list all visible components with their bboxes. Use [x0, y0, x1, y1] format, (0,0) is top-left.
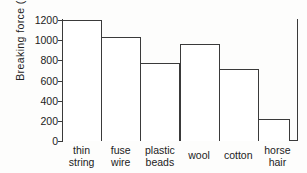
y-tick-label: 1000 — [35, 34, 58, 46]
x-tick-label-line: fuse — [101, 145, 140, 157]
bar — [258, 119, 290, 141]
bar — [101, 37, 141, 141]
y-tick-mark — [58, 101, 62, 102]
x-tick-label: thinstring — [62, 145, 101, 168]
y-tick-label: 600 — [40, 75, 58, 87]
x-tick-label-line: cotton — [219, 150, 258, 162]
bar — [62, 20, 102, 141]
bar — [140, 63, 180, 141]
x-axis-category-labels: thinstringfusewireplasticbeadswoolcotton… — [62, 145, 298, 171]
x-tick-label-line: wire — [101, 157, 140, 169]
y-tick-mark — [58, 141, 62, 142]
y-tick-label: 1200 — [35, 14, 58, 26]
x-tick-label: wool — [180, 150, 219, 162]
bar — [219, 69, 259, 141]
y-tick-label: 800 — [40, 54, 58, 66]
y-tick-mark — [58, 20, 62, 21]
x-tick-label-line: horse — [258, 145, 297, 157]
y-tick-label: 400 — [40, 95, 58, 107]
x-tick-label: horsehair — [258, 145, 297, 168]
x-tick-label: plasticbeads — [140, 145, 179, 168]
x-tick-label-line: plastic — [140, 145, 179, 157]
y-tick-mark — [58, 121, 62, 122]
plot-area — [62, 20, 297, 141]
plot-right-border — [297, 19, 298, 141]
y-tick-mark — [58, 81, 62, 82]
bar-chart: Breaking force (grams) 02004006008001000… — [0, 0, 307, 173]
y-tick-mark — [58, 60, 62, 61]
x-tick-label-line: wool — [180, 150, 219, 162]
x-tick-label-line: thin — [62, 145, 101, 157]
x-tick-label-line: string — [62, 157, 101, 169]
x-tick-label-line: hair — [258, 157, 297, 169]
x-tick-label-line: beads — [140, 157, 179, 169]
x-tick-label: fusewire — [101, 145, 140, 168]
bar — [180, 44, 220, 141]
y-axis-tick-labels: 020040060080010001200 — [24, 14, 58, 142]
x-tick-label: cotton — [219, 150, 258, 162]
y-tick-label: 200 — [40, 115, 58, 127]
bar-series — [62, 20, 297, 141]
y-tick-mark — [58, 40, 62, 41]
